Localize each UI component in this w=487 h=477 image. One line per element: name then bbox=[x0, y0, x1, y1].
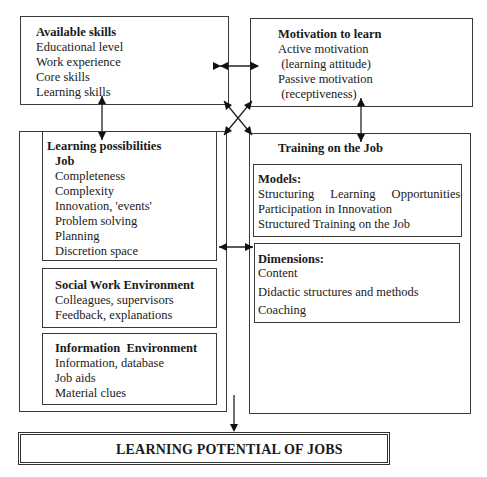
connector-arrows bbox=[0, 0, 487, 477]
